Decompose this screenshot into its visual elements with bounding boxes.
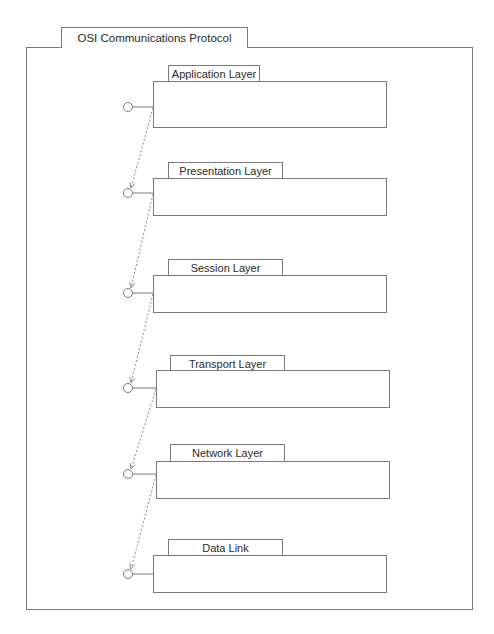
dependency-arrow: [131, 194, 153, 288]
arrowhead-icon: [130, 377, 135, 383]
interface-circle-icon: [124, 384, 133, 393]
interface-circle-icon: [124, 103, 133, 112]
arrowhead-icon: [130, 282, 135, 288]
dependency-arrow: [131, 108, 153, 188]
dependency-arrow: [131, 294, 153, 383]
arrowhead-icon: [130, 463, 135, 469]
interface-circle-icon: [124, 470, 133, 479]
dependency-arrow: [131, 389, 156, 469]
interface-circle-icon: [124, 289, 133, 298]
connectors: [0, 0, 494, 634]
interface-circle-icon: [124, 189, 133, 198]
interface-circle-icon: [124, 570, 133, 579]
dependency-arrow: [131, 475, 156, 569]
